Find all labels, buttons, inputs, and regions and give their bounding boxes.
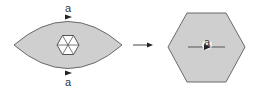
transition-arrow-icon xyxy=(133,43,153,48)
bottom-edge-arrow-icon xyxy=(65,71,72,76)
inner-hexagon xyxy=(57,36,79,55)
bottom-edge-label: a xyxy=(65,76,72,88)
top-edge-label: a xyxy=(65,2,72,14)
center-label: a xyxy=(204,36,211,48)
top-edge-arrow-icon xyxy=(65,15,72,20)
diagram-canvas: a a a xyxy=(0,0,256,90)
